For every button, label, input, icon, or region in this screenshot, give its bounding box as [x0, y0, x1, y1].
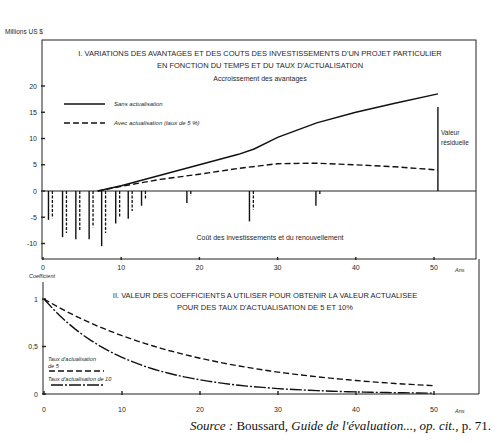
x-tick-label: 40: [352, 406, 360, 413]
panel-1-legend: Sans actualisation Avec actualisation (t…: [64, 101, 200, 126]
legend-label-sans-actualisation: Sans actualisation: [114, 101, 163, 107]
x-tick-label: 30: [274, 406, 282, 413]
x-tick-label: 50: [430, 264, 438, 271]
y-tick-label: 20: [29, 83, 37, 90]
legend-label-10: Taux d'actualisation de 10: [48, 376, 112, 382]
y-tick-label: -5: [31, 214, 37, 221]
source-title: Guide de l'évaluation...,: [291, 418, 416, 433]
y-tick-label: 0: [33, 188, 37, 195]
panel-2-legend: Taux d'actualisation de 5 Taux d'actuali…: [48, 356, 112, 385]
cost-annotation: Coût des investissements et du renouvell…: [196, 234, 343, 241]
panel-2-title-line-1: II. VALEUR DES COEFFICIENTS A UTILISER P…: [113, 291, 417, 300]
panel-1-series: [98, 94, 438, 191]
panel-1-subtitle: Accroissement des avantages: [213, 75, 307, 83]
residual-value-label-line-1: Valeur: [441, 129, 460, 136]
panel-2-x-axis-label: Ans: [454, 408, 465, 414]
series-solid: [98, 94, 438, 191]
y-tick-label: 1: [34, 296, 38, 303]
x-tick-label: 0: [41, 264, 45, 271]
x-tick-label: 10: [117, 264, 125, 271]
panel-2-axes: 10,5001020304050: [28, 296, 438, 414]
x-tick-label: 20: [196, 264, 204, 271]
panel-1-axes: 20151050-5-1001020304050: [27, 83, 476, 272]
source-ref: op. cit.,: [419, 418, 458, 433]
x-tick-label: 40: [352, 264, 360, 271]
figure: Millions US $ I. VARIATIONS DES AVANTAGE…: [0, 0, 504, 445]
legend-label-5-line-2: de 5: [48, 363, 60, 369]
x-tick-label: 0: [42, 406, 46, 413]
source-prefix: Source :: [190, 418, 233, 433]
y-tick-label: -10: [27, 240, 37, 247]
panel-1-title-line-2: EN FONCTION DU TEMPS ET DU TAUX D'ACTUAL…: [157, 61, 363, 70]
y-axis-label-coefficient: Coefficient: [29, 273, 55, 279]
legend-label-5-line-1: Taux d'actualisation: [48, 356, 96, 362]
series-dashed: [44, 299, 434, 386]
panel-1-cost-bars: [48, 107, 437, 246]
x-tick-label: 30: [274, 264, 282, 271]
residual-value-label-line-2: résiduelle: [441, 139, 469, 146]
x-tick-label: 20: [196, 406, 204, 413]
panel-2: Coefficient II. VALEUR DES COEFFICIENTS …: [28, 259, 479, 414]
panel-1-x-axis-label: Ans: [454, 267, 465, 273]
panel-2-title-line-2: POUR DES TAUX D'ACTUALISATION DE 5 ET 10…: [177, 303, 353, 312]
y-tick-label: 15: [29, 109, 37, 116]
source-author: Boussard,: [236, 418, 288, 433]
series-dashed: [98, 163, 438, 191]
panel-1-frame: [42, 40, 476, 259]
y-tick-label: 0,5: [28, 343, 38, 350]
legend-label-avec-actualisation: Avec actualisation (taux de 5 %): [113, 120, 200, 126]
y-tick-label: 10: [29, 135, 37, 142]
source-citation: Source : Boussard, Guide de l'évaluation…: [190, 418, 491, 434]
y-axis-label-millions: Millions US $: [5, 28, 43, 35]
y-tick-label: 0: [34, 391, 38, 398]
x-tick-label: 10: [118, 406, 126, 413]
panel-1-title-line-1: I. VARIATIONS DES AVANTAGES ET DES COUTS…: [78, 49, 442, 58]
y-tick-label: 5: [33, 161, 37, 168]
x-tick-label: 50: [430, 406, 438, 413]
panel-1: Millions US $ I. VARIATIONS DES AVANTAGE…: [5, 28, 476, 273]
source-page: p. 71.: [462, 418, 491, 433]
